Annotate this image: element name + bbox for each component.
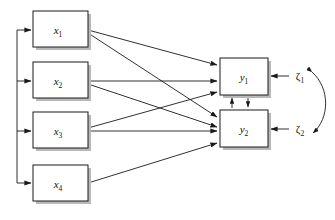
node-x3[interactable]: x3 [33, 112, 91, 151]
sem-diagram-svg: x1 x2 x3 x4 y1 y2 [0, 0, 335, 220]
disturbance-paths [271, 76, 289, 129]
node-y2[interactable]: y2 [220, 110, 271, 150]
node-x4[interactable]: x4 [33, 165, 91, 204]
path-x2-to-y2 [88, 84, 217, 127]
node-x3-box[interactable] [33, 112, 88, 148]
node-y1[interactable]: y1 [220, 58, 271, 98]
exogenous-bracket [17, 30, 31, 183]
node-x2-box[interactable] [33, 62, 88, 98]
reciprocal-paths [232, 97, 248, 108]
node-zeta2-label: ζ2 [296, 123, 305, 138]
node-x4-box[interactable] [33, 165, 88, 201]
curved-double-headed-arrow [312, 72, 326, 133]
path-x3-to-y1 [88, 92, 217, 128]
node-x1[interactable]: x1 [33, 11, 91, 50]
node-zeta1-label: ζ1 [296, 70, 305, 85]
path-x4-to-y2 [88, 143, 217, 183]
node-x1-box[interactable] [33, 11, 88, 47]
path-x1-to-y1 [88, 30, 217, 65]
structural-paths [88, 30, 217, 183]
path-diagram-canvas: x1 x2 x3 x4 y1 y2 [0, 0, 335, 220]
path-x1-to-y2 [88, 33, 217, 117]
node-x2[interactable]: x2 [33, 62, 91, 101]
node-zeta2: ζ2 [296, 123, 305, 138]
node-zeta1: ζ1 [296, 70, 305, 85]
covariance-zeta1-zeta2 [312, 72, 326, 133]
